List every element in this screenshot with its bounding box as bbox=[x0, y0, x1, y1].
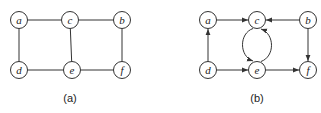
node-d: d bbox=[11, 62, 28, 79]
node-b: b bbox=[300, 12, 317, 29]
node-label: c bbox=[255, 14, 260, 26]
edge-c-e bbox=[70, 28, 71, 61]
node-label: e bbox=[70, 64, 75, 76]
caption-b: (b) bbox=[250, 92, 263, 104]
graph-figure: acbdef acbdef (a) (b) bbox=[0, 0, 321, 113]
node-label: a bbox=[205, 14, 211, 26]
node-f: f bbox=[300, 62, 317, 79]
node-a: a bbox=[200, 12, 217, 29]
node-label: d bbox=[205, 64, 211, 76]
node-a: a bbox=[11, 12, 28, 29]
undirected-graph: acbdef bbox=[11, 12, 131, 79]
node-f: f bbox=[114, 62, 131, 79]
node-c: c bbox=[62, 12, 79, 29]
directed-graph: acbdef bbox=[200, 12, 317, 79]
node-label: e bbox=[255, 64, 260, 76]
node-label: d bbox=[16, 64, 22, 76]
edge-e-c bbox=[261, 29, 272, 62]
node-label: c bbox=[68, 14, 73, 26]
node-label: a bbox=[16, 14, 22, 26]
node-e: e bbox=[64, 62, 81, 79]
node-label: b bbox=[119, 14, 125, 26]
node-b: b bbox=[114, 12, 131, 29]
caption-a: (a) bbox=[63, 92, 76, 104]
node-d: d bbox=[200, 62, 217, 79]
node-e: e bbox=[249, 62, 266, 79]
edge-c-e bbox=[243, 29, 254, 62]
node-label: b bbox=[305, 14, 311, 26]
node-c: c bbox=[249, 12, 266, 29]
